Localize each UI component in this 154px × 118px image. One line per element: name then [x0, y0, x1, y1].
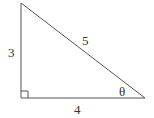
triangle-shape — [21, 3, 145, 98]
label-hypotenuse: 5 — [82, 33, 89, 48]
triangle-diagram: 3 5 4 θ — [0, 0, 154, 118]
label-angle-theta: θ — [119, 84, 125, 99]
label-horizontal-side: 4 — [74, 102, 81, 117]
right-angle-marker — [21, 91, 28, 98]
label-vertical-side: 3 — [8, 45, 15, 60]
